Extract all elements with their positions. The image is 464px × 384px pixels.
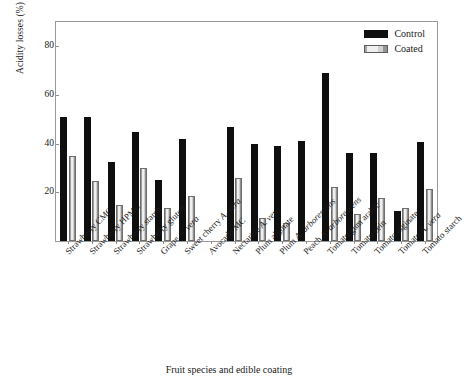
legend-item-coated: Coated [364,43,425,54]
legend-swatch-coated-icon [364,45,388,53]
legend-label-control: Control [394,28,425,39]
plot-area: Acidity losses (%) 20406080 Control Coat… [55,21,438,242]
y-tick-label-80: 80 [34,41,54,51]
legend-swatch-control-icon [364,30,388,38]
y-tick-label-20: 20 [34,187,54,197]
y-axis-title: Acidity losses (%) [15,0,25,118]
y-tick-label-40: 40 [34,139,54,149]
chart-legend: Control Coated [364,28,425,58]
legend-item-control: Control [364,28,425,39]
bar-control-0 [60,117,67,241]
x-axis-title: Fruit species and edible coating [0,364,458,375]
y-tick-label-60: 60 [34,90,54,100]
bar-coated-0 [69,156,76,241]
x-axis-labels: Strawberry CMCStrawberry HPMCStrawberry … [0,244,458,354]
legend-label-coated: Coated [394,43,422,54]
